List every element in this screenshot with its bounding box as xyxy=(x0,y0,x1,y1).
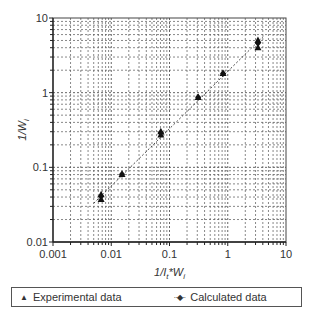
calculated-trend-line xyxy=(94,36,264,204)
legend: ▲ Experimental data ··◆·· Calculated dat… xyxy=(11,287,302,307)
x-tick-label: 0.1 xyxy=(162,248,177,260)
x-tick-label: 10 xyxy=(280,248,292,260)
legend-label-experimental: Experimental data xyxy=(33,291,122,303)
x-tick-label: 1 xyxy=(225,248,231,260)
x-tick-label: 0.001 xyxy=(39,248,67,260)
legend-label-calculated: Calculated data xyxy=(190,291,266,303)
y-tick-label: 0.01 xyxy=(27,236,48,248)
y-axis-title: 1/Wi xyxy=(16,119,31,141)
legend-item-calculated: ··◆·· Calculated data xyxy=(174,291,267,303)
y-tick-label: 0.1 xyxy=(33,161,48,173)
y-tick-label: 1 xyxy=(42,87,48,99)
x-tick-label: 0.01 xyxy=(101,248,122,260)
y-tick-label: 10 xyxy=(36,12,48,24)
x-axis-title: 1/It*Wi xyxy=(154,266,185,281)
legend-item-experimental: ▲ Experimental data xyxy=(20,291,122,303)
triangle-marker-icon: ▲ xyxy=(20,293,28,302)
diamond-line-marker-icon: ··◆·· xyxy=(174,293,186,302)
chart: 0.0010.010.11100.010.11101/It*Wi1/Wi xyxy=(0,0,319,285)
